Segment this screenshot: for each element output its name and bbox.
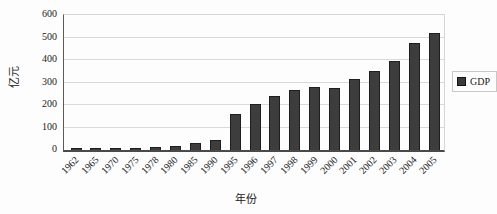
bar-1996 (250, 104, 261, 150)
bar-1995 (230, 114, 241, 150)
legend-box: GDP (452, 71, 497, 92)
bar-1978 (150, 147, 161, 150)
bar-1962 (71, 148, 82, 150)
bar-1990 (210, 140, 221, 150)
gridline-400 (64, 59, 444, 60)
legend-gdp-label: GDP (470, 77, 490, 87)
y-tick-label-600: 600 (17, 8, 57, 20)
y-tick-label-200: 200 (17, 98, 57, 110)
bar-1998 (289, 90, 300, 150)
gridline-500 (64, 37, 444, 38)
x-axis-title: 年份 (63, 190, 429, 206)
y-tick-label-0: 0 (17, 143, 57, 155)
bar-1965 (90, 148, 101, 150)
bar-1970 (110, 148, 121, 150)
bar-1999 (309, 87, 320, 150)
y-tick-label-100: 100 (17, 121, 57, 133)
bar-2001 (349, 79, 360, 150)
gridline-300 (64, 82, 444, 83)
y-tick-label-400: 400 (17, 53, 57, 65)
bar-1975 (130, 148, 141, 150)
y-tick-label-500: 500 (17, 31, 57, 43)
bar-2002 (369, 71, 380, 150)
bar-1980 (170, 146, 181, 150)
y-tick-label-300: 300 (17, 76, 57, 88)
bar-2003 (389, 61, 400, 150)
bar-2004 (409, 43, 420, 150)
plot-area (63, 14, 445, 152)
bar-1997 (269, 96, 280, 150)
bar-1985 (190, 143, 201, 150)
bar-2005 (429, 33, 440, 150)
legend-gdp-marker-icon (457, 77, 466, 86)
bar-2000 (329, 88, 340, 150)
